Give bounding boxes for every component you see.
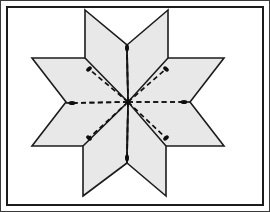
figure-root: Eight-pointed folded paper star Line dra… bbox=[0, 0, 270, 212]
dot-left-icon bbox=[69, 101, 76, 105]
center-node bbox=[126, 100, 130, 104]
folded-star-illustration: Eight-pointed folded paper star Line dra… bbox=[0, 0, 270, 212]
dot-right-icon bbox=[181, 100, 188, 104]
dot-down-icon bbox=[125, 155, 129, 162]
dot-up-icon bbox=[125, 45, 129, 52]
